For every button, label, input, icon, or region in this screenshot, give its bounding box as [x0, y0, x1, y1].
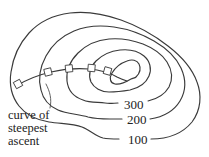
right-angle-mark-5	[103, 67, 112, 76]
caption-line-3: ascent	[8, 134, 40, 148]
contour-label-300: 300	[124, 97, 144, 112]
contour-label-200: 200	[127, 112, 147, 127]
right-angle-mark-2	[44, 68, 52, 76]
caption-line-1: curve of	[8, 108, 50, 122]
contour-label-100: 100	[128, 132, 148, 147]
right-angle-mark-3	[65, 65, 73, 73]
right-angle-mark-4	[88, 64, 96, 72]
caption-line-2: steepest	[8, 121, 48, 135]
contour-map-svg: 300 200 100 curve of steepest ascent	[0, 0, 209, 157]
contour-map-figure: 300 200 100 curve of steepest ascent	[0, 0, 209, 157]
right-angle-mark-1	[13, 79, 22, 88]
contour-line-300	[67, 39, 172, 104]
